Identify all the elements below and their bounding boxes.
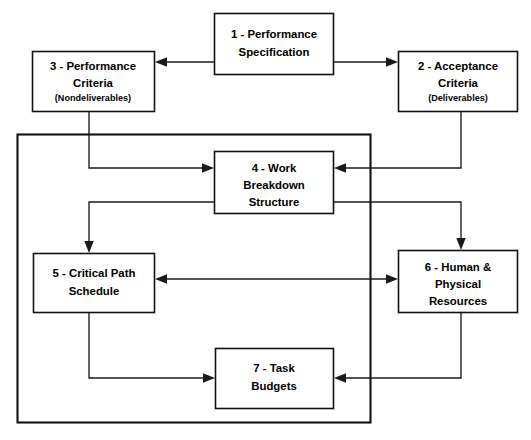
node-5-line-1: 5 - Critical Path bbox=[53, 267, 136, 279]
connector-schedule-to-task-budgets bbox=[89, 312, 215, 383]
node-6-line-2: Physical bbox=[435, 278, 481, 290]
arrow-head-icon bbox=[334, 163, 346, 172]
node-3-subtitle: (Nondeliverables) bbox=[55, 93, 131, 103]
node-human-physical-resources[interactable]: 6 - Human & Physical Resources bbox=[399, 251, 518, 313]
arrow-head-icon bbox=[386, 57, 398, 66]
node-performance-specification[interactable]: 1 - Performance Specification bbox=[215, 14, 334, 75]
arrow-head-icon bbox=[155, 57, 167, 66]
connector-wbs-to-critical-path-schedule bbox=[84, 202, 214, 253]
node-task-budgets[interactable]: 7 - Task Budgets bbox=[216, 349, 334, 409]
arrow-head-icon bbox=[456, 238, 465, 250]
node-2-line-2: Criteria bbox=[438, 77, 479, 89]
node-3-line-2: Criteria bbox=[73, 77, 114, 89]
node-performance-criteria[interactable]: 3 - Performance Criteria (Nondeliverable… bbox=[33, 52, 155, 112]
node-1-line-2: Specification bbox=[239, 46, 310, 58]
node-work-breakdown-structure[interactable]: 4 - Work Breakdown Structure bbox=[215, 152, 334, 214]
node-2-line-1: 2 - Acceptance bbox=[418, 60, 498, 72]
arrow-head-icon bbox=[203, 373, 215, 382]
connector-resources-to-task-budgets bbox=[334, 312, 461, 383]
node-6-line-3: Resources bbox=[429, 295, 487, 307]
connector-wbs-to-human-physical-resources bbox=[334, 202, 466, 250]
node-4-line-1: 4 - Work bbox=[252, 162, 297, 174]
node-acceptance-criteria[interactable]: 2 - Acceptance Criteria (Deliverables) bbox=[399, 52, 518, 112]
connector-spec-to-performance-criteria bbox=[155, 57, 214, 66]
node-6-line-1: 6 - Human & bbox=[425, 261, 491, 273]
node-5-line-2: Schedule bbox=[69, 285, 120, 297]
node-4-line-3: Structure bbox=[249, 196, 300, 208]
arrow-head-icon bbox=[386, 274, 398, 283]
connector-spec-to-acceptance-criteria bbox=[334, 57, 398, 66]
arrow-head-icon bbox=[202, 163, 214, 172]
node-4-line-2: Breakdown bbox=[243, 179, 304, 191]
connector-acceptance-criteria-to-wbs bbox=[334, 111, 461, 173]
connector-performance-criteria-to-wbs bbox=[89, 111, 214, 173]
flow-diagram-canvas: 1 - Performance Specification 3 - Perfor… bbox=[0, 0, 531, 440]
node-1-line-1: 1 - Performance bbox=[231, 28, 317, 40]
node-7-line-2: Budgets bbox=[251, 380, 297, 392]
node-2-subtitle: (Deliverables) bbox=[428, 93, 488, 103]
connector-schedule-resources-bidirectional bbox=[155, 274, 398, 283]
node-critical-path-schedule[interactable]: 5 - Critical Path Schedule bbox=[34, 254, 155, 313]
arrow-head-icon bbox=[334, 373, 346, 382]
node-7-line-1: 7 - Task bbox=[253, 362, 295, 374]
arrow-head-icon bbox=[155, 274, 167, 283]
node-3-line-1: 3 - Performance bbox=[50, 60, 136, 72]
arrow-head-icon bbox=[84, 241, 93, 253]
diagram-root: 1 - Performance Specification 3 - Perfor… bbox=[0, 0, 531, 440]
